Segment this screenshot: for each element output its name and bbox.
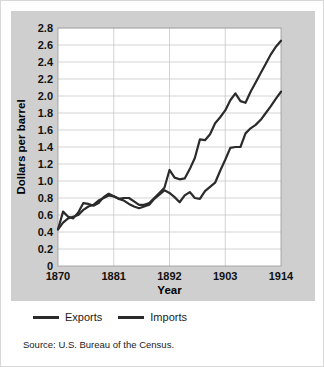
legend-label-exports: Exports [65,312,102,323]
figure-container: 00.20.40.60.81.01.21.41.61.82.02.22.42.6… [0,0,324,367]
legend-item-exports: Exports [33,312,102,323]
svg-text:2.4: 2.4 [38,56,54,68]
source-note: Source: U.S. Bureau of the Census. [23,339,174,350]
svg-text:1.0: 1.0 [38,175,53,187]
svg-text:Year: Year [157,284,182,296]
svg-text:1.8: 1.8 [38,107,53,119]
line-chart: 00.20.40.60.81.01.21.41.61.82.02.22.42.6… [11,11,315,301]
svg-text:2.6: 2.6 [38,39,53,51]
legend-and-source-panel: Exports Imports Source: U.S. Bureau of t… [11,301,315,358]
svg-text:2.8: 2.8 [38,22,53,34]
svg-text:1870: 1870 [46,270,70,282]
svg-text:1.2: 1.2 [38,158,53,170]
svg-text:0.6: 0.6 [38,209,53,221]
legend-line-swatch-imports [118,316,144,319]
svg-text:1892: 1892 [157,270,181,282]
svg-text:1881: 1881 [102,270,126,282]
svg-text:1914: 1914 [269,270,294,282]
x-axis-tick-labels: 18701881189219031914 [46,270,294,282]
svg-text:0.2: 0.2 [38,243,53,255]
legend-label-imports: Imports [150,312,187,323]
legend-line-swatch-exports [33,316,59,319]
svg-text:1.6: 1.6 [38,124,53,136]
legend-item-imports: Imports [118,312,187,323]
svg-text:0.8: 0.8 [38,192,53,204]
y-axis-tick-labels: 00.20.40.60.81.01.21.41.61.82.02.22.42.6… [38,22,54,272]
svg-text:2.2: 2.2 [38,73,53,85]
svg-text:1.4: 1.4 [38,141,54,153]
chart-legend: Exports Imports [33,312,187,323]
chart-panel: 00.20.40.60.81.01.21.41.61.82.02.22.42.6… [11,11,315,301]
svg-text:1903: 1903 [213,270,237,282]
svg-text:0.4: 0.4 [38,226,54,238]
svg-text:Dollars per barrel: Dollars per barrel [15,99,27,194]
svg-text:2.0: 2.0 [38,90,53,102]
